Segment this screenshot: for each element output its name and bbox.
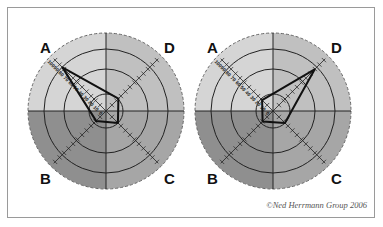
quadrant-label-c: C xyxy=(331,170,342,187)
profile-chart-right: 1009080706050403020100ADBC xyxy=(195,33,351,189)
quadrant-label-a: A xyxy=(40,39,51,56)
quadrant-label-d: D xyxy=(164,39,175,56)
quadrant-label-b: B xyxy=(40,170,51,187)
whole-brain-diagrams: 1009080706050403020100ADBC 1009080706050… xyxy=(0,0,383,227)
quadrant-label-a: A xyxy=(207,39,218,56)
quadrant-label-c: C xyxy=(164,170,175,187)
copyright-notice: ©Ned Herrmann Group 2006 xyxy=(266,200,367,210)
quadrant-label-b: B xyxy=(207,170,218,187)
profile-chart-left: 1009080706050403020100ADBC xyxy=(28,33,184,189)
quadrant-label-d: D xyxy=(331,39,342,56)
